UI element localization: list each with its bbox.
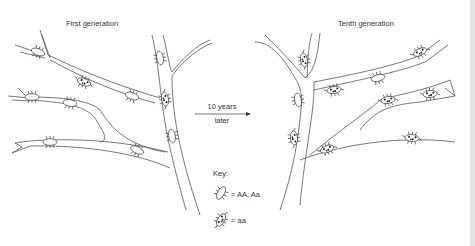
key-plain-beetle-icon — [212, 184, 229, 202]
tenth-generation-title: Tenth generation — [338, 19, 394, 28]
key-label-recessive: = aa — [231, 216, 246, 225]
key-label-dominant: = AA, Aa — [231, 190, 260, 199]
left-tree — [8, 30, 212, 215]
right-tree — [255, 33, 455, 210]
transition-label-later: later — [202, 116, 242, 125]
key-title: Key: — [213, 169, 228, 178]
right-edge-strip — [470, 0, 475, 246]
arrowhead-icon — [246, 112, 251, 116]
first-generation-title: First generation — [66, 19, 118, 28]
transition-label-years: 10 years — [202, 102, 242, 111]
key-spotted-beetle-icon — [211, 208, 231, 231]
